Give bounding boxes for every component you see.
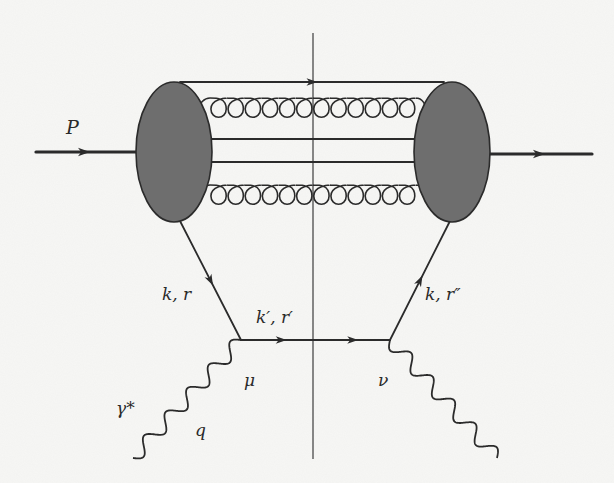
right-blob-proton-vertex (414, 82, 490, 222)
label-left-quark: k, r (162, 286, 191, 303)
label-proton-p: P (66, 118, 79, 137)
label-photon-q: q (195, 422, 206, 439)
diagram-canvas (0, 0, 614, 483)
paper-texture (0, 0, 614, 483)
label-middle-quark: k′, r′ (256, 309, 293, 326)
label-vertex-mu: μ (244, 372, 255, 389)
label-right-quark: k, r″ (425, 286, 461, 303)
label-photon-gamma: γ* (116, 400, 135, 417)
feynman-diagram: P k, r k′, r′ k, r″ μ ν γ* q (0, 0, 614, 483)
left-blob-proton-vertex (136, 82, 212, 222)
label-vertex-nu: ν (378, 372, 388, 389)
